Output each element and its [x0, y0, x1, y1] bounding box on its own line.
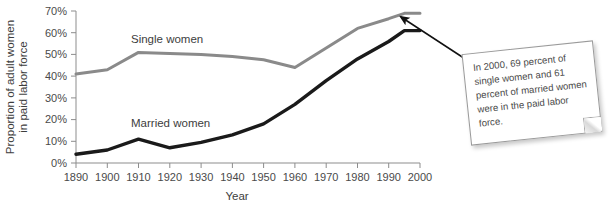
- callout-note: In 2000, 69 percent of single women and …: [462, 40, 603, 145]
- y-tick-label-0: 0%: [51, 157, 67, 169]
- y-tick-label-60: 60%: [45, 27, 67, 39]
- series-line-single-women: [76, 13, 420, 74]
- x-tick-label-1950: 1950: [251, 171, 275, 183]
- x-axis-tick-labels: 1890 1900 1910 1920 1930 1940 1950 1960 …: [64, 171, 432, 183]
- x-axis-ticks: [76, 163, 420, 168]
- y-axis-title-line1: Proportion of adult women: [4, 20, 16, 154]
- chart-figure: 0% 10% 20% 30% 40% 50% 60% 70% 1890: [0, 0, 615, 209]
- y-tick-label-10: 10%: [45, 135, 67, 147]
- y-tick-label-50: 50%: [45, 48, 67, 60]
- x-tick-label-1930: 1930: [189, 171, 213, 183]
- y-tick-label-20: 20%: [45, 113, 67, 125]
- x-tick-label-1900: 1900: [95, 171, 119, 183]
- x-tick-label-1990: 1990: [376, 171, 400, 183]
- page-fold-corner-icon: [583, 116, 603, 134]
- x-tick-label-2000: 2000: [408, 171, 432, 183]
- y-axis-ticks: [71, 11, 76, 163]
- x-tick-label-1910: 1910: [126, 171, 150, 183]
- x-tick-label-1960: 1960: [283, 171, 307, 183]
- y-tick-label-70: 70%: [45, 5, 67, 17]
- x-tick-label-1890: 1890: [64, 171, 88, 183]
- x-tick-label-1920: 1920: [158, 171, 182, 183]
- y-tick-label-30: 30%: [45, 92, 67, 104]
- y-axis-tick-labels: 0% 10% 20% 30% 40% 50% 60% 70%: [45, 5, 67, 169]
- y-tick-label-40: 40%: [45, 70, 67, 82]
- x-tick-label-1970: 1970: [314, 171, 338, 183]
- callout-note-text: In 2000, 69 percent of single women and …: [472, 49, 593, 131]
- x-axis-title: Year: [225, 190, 248, 202]
- x-tick-label-1980: 1980: [345, 171, 369, 183]
- x-tick-label-1940: 1940: [220, 171, 244, 183]
- series-line-married-women: [76, 31, 420, 155]
- y-axis-title-line2: in paid labor force: [17, 41, 29, 132]
- series-label-married-women: Married women: [131, 117, 210, 129]
- series-label-single-women: Single women: [131, 33, 203, 45]
